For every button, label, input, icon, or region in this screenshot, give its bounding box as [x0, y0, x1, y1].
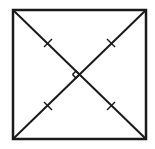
diagram-canvas — [0, 0, 155, 149]
right-angle-marker — [73, 71, 80, 75]
right-angle-marker-lower — [73, 75, 80, 79]
